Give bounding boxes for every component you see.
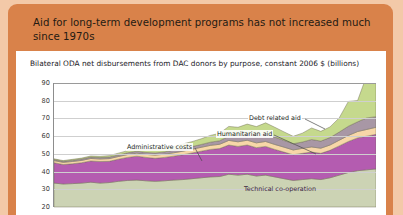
gridline-40 [54, 172, 376, 173]
y-axis-tick-30: 30 [32, 186, 50, 194]
gridline-70 [54, 118, 376, 119]
y-axis-tick-60: 60 [32, 133, 50, 141]
y-axis-tick-40: 40 [32, 168, 50, 176]
y-axis-tick-70: 70 [32, 115, 50, 123]
plot-area: 2030405060708090 [36, 83, 376, 215]
y-axis-tick-50: 50 [32, 150, 50, 158]
y-axis-tick-80: 80 [32, 97, 50, 105]
annotation-administrative-costs: Administrative costs [126, 143, 193, 151]
page-title: Aid for long-term development programs h… [33, 16, 378, 43]
y-axis-tick-90: 90 [32, 79, 50, 87]
y-axis-tick-20: 20 [32, 203, 50, 211]
chart-screenshot: Aid for long-term development programs h… [0, 0, 403, 215]
annotation-humanitarian-aid: Humanitarian aid [216, 130, 273, 138]
annotation-technical-cooperation: Technical co-operation [244, 185, 316, 193]
gridline-90 [54, 83, 376, 84]
gridline-80 [54, 101, 376, 102]
chart-card: Bilateral ODA net disbursements from DAC… [16, 51, 386, 215]
stacked-area-series [54, 83, 376, 215]
chart-subtitle: Bilateral ODA net disbursements from DAC… [30, 59, 380, 69]
gridline-30 [54, 189, 376, 190]
annotation-debt-related-aid: Debt related aid [248, 114, 302, 122]
gridline-50 [54, 154, 376, 155]
gridline-60 [54, 136, 376, 137]
